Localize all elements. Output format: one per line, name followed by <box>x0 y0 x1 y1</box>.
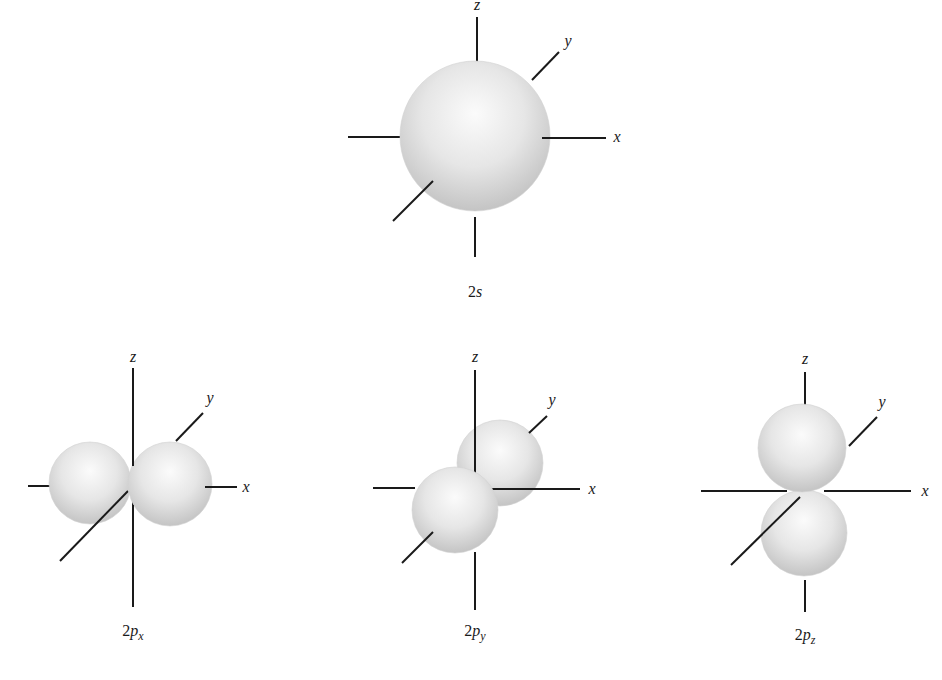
s-orbital-sphere <box>400 61 550 211</box>
y-axis-label: y <box>876 393 886 411</box>
x-axis-label: x <box>241 478 249 495</box>
orbital-caption-2py: 2py <box>464 622 486 643</box>
y-axis-label: y <box>204 389 214 407</box>
y-axis-upper <box>849 417 877 446</box>
p-lobe-positive-z <box>758 404 846 492</box>
x-axis-label: x <box>587 480 595 497</box>
z-axis-label: z <box>473 0 481 13</box>
orbital-2py: z y x 2py <box>373 348 596 643</box>
y-axis-label: y <box>546 391 556 409</box>
x-axis-label: x <box>920 482 928 499</box>
p-lobe-negative-z <box>761 490 847 576</box>
orbital-caption-2s: 2s <box>468 283 482 300</box>
orbital-2px: z y x 2px <box>28 348 250 643</box>
y-axis-lower <box>402 532 433 563</box>
orbital-2pz: z y x 2pz <box>701 350 929 647</box>
x-axis-label: x <box>612 128 620 145</box>
p-lobe-positive-x <box>128 442 212 526</box>
y-axis-label: y <box>562 32 572 50</box>
orbital-2s: z y x 2s <box>348 0 621 300</box>
y-axis-upper <box>532 52 559 80</box>
p-lobe-negative-x <box>49 442 131 524</box>
y-axis-lower <box>393 181 433 221</box>
orbital-caption-2px: 2px <box>122 622 144 643</box>
z-axis-label: z <box>801 350 809 367</box>
z-axis-label: z <box>471 348 479 365</box>
z-axis-label: z <box>129 348 137 365</box>
y-axis-upper <box>176 413 203 441</box>
y-axis-upper <box>529 416 547 433</box>
orbital-caption-2pz: 2pz <box>795 626 816 647</box>
orbital-diagram: z y x 2s z y x 2px z y x 2py <box>0 0 942 680</box>
